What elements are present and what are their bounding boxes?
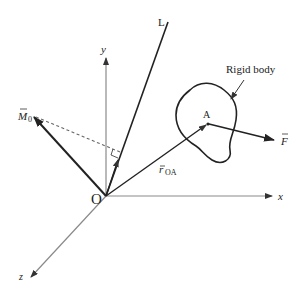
force-vector-F bbox=[209, 124, 274, 140]
label-x-axis: x bbox=[277, 190, 283, 202]
svg-text:F: F bbox=[280, 135, 288, 147]
moment-vector-M0 bbox=[34, 117, 106, 196]
label-force-F: F bbox=[280, 134, 288, 147]
moment-about-axis-diagram: y x z L O A Rigid body M 0 r OA F bbox=[0, 0, 302, 296]
label-y-axis: y bbox=[100, 43, 106, 55]
svg-text:r: r bbox=[159, 163, 164, 175]
svg-text:M: M bbox=[17, 110, 28, 122]
rigid-body-shape bbox=[176, 83, 237, 162]
label-point-A: A bbox=[203, 109, 211, 120]
label-moment-M0: M 0 bbox=[17, 109, 32, 124]
rigid-body-leader-line bbox=[231, 80, 244, 99]
r-OA-vector bbox=[106, 125, 206, 196]
label-origin-O: O bbox=[91, 191, 102, 207]
z-axis bbox=[31, 196, 106, 277]
label-position-r-OA: r OA bbox=[159, 163, 177, 177]
svg-text:OA: OA bbox=[165, 168, 177, 177]
label-z-axis: z bbox=[18, 271, 23, 282]
label-axis-L: L bbox=[158, 16, 165, 28]
unit-vector-along-L bbox=[106, 160, 118, 196]
right-angle-marker bbox=[111, 149, 118, 158]
svg-text:0: 0 bbox=[28, 115, 32, 124]
label-rigid-body: Rigid body bbox=[226, 63, 276, 75]
